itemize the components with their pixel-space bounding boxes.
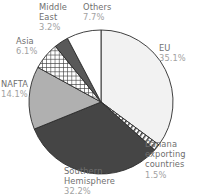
pie-label-banana-line3: countries: [145, 159, 186, 169]
pie-label-nafta-name: NAFTA: [1, 79, 28, 89]
pie-label-eu-name: EU: [159, 43, 186, 53]
pie-label-banana-line1: Banana: [145, 139, 186, 149]
pie-label-middle-east-line1: Middle: [39, 2, 67, 12]
pie-label-others-name: Others: [83, 2, 111, 12]
pie-label-others: Others 7.7%: [83, 2, 111, 22]
pie-label-southern-hemisphere: Southern Hemisphere 32.2%: [64, 166, 115, 195]
pie-label-asia-name: Asia: [16, 36, 37, 46]
pie-label-nafta-percent: 14.1%: [1, 89, 28, 99]
pie-label-banana-percent: 1.5%: [145, 170, 186, 180]
pie-label-asia: Asia 6.1%: [16, 36, 37, 56]
pie-label-southern-percent: 32.2%: [64, 186, 115, 195]
pie-label-middle-east-line2: East: [39, 12, 67, 22]
pie-label-asia-percent: 6.1%: [16, 46, 37, 56]
pie-label-banana-line2: exporting: [145, 149, 186, 159]
pie-label-banana-exporting-countries: Banana exporting countries 1.5%: [145, 139, 186, 180]
pie-label-others-percent: 7.7%: [83, 12, 111, 22]
pie-label-middle-east-percent: 3.2%: [39, 22, 67, 32]
pie-label-middle-east: Middle East 3.2%: [39, 2, 67, 33]
pie-label-southern-line2: Hemisphere: [64, 176, 115, 186]
pie-label-eu-percent: 35.1%: [159, 53, 186, 63]
pie-chart-figure: Middle East 3.2% Others 7.7% Asia 6.1% N…: [0, 0, 197, 195]
pie-label-eu: EU 35.1%: [159, 43, 186, 63]
pie-label-nafta: NAFTA 14.1%: [1, 79, 28, 99]
pie-label-southern-line1: Southern: [64, 166, 115, 176]
